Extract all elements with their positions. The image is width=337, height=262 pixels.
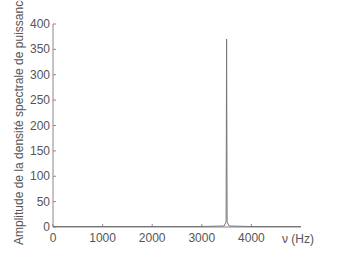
y-tick-label: 50 xyxy=(37,195,51,209)
y-axis-ticks: 050100150200250300350400 xyxy=(30,17,56,234)
x-tick-label: 0 xyxy=(50,231,57,245)
y-tick-label: 250 xyxy=(30,93,50,107)
psd-series-line xyxy=(53,39,301,226)
x-tick-label: 3000 xyxy=(188,231,215,245)
x-tick-label: 1000 xyxy=(89,231,116,245)
y-tick-label: 350 xyxy=(30,42,50,56)
y-tick-label: 150 xyxy=(30,144,50,158)
axes xyxy=(53,24,301,227)
y-axis-label: Amplitude de la densité spectrale de pui… xyxy=(12,0,26,245)
y-tick-label: 100 xyxy=(30,169,50,183)
y-tick-label: 400 xyxy=(30,17,50,31)
y-tick-label: 300 xyxy=(30,68,50,82)
x-tick-label: 4000 xyxy=(238,231,265,245)
psd-chart: 050100150200250300350400 010002000300040… xyxy=(0,0,337,262)
x-tick-label: 2000 xyxy=(139,231,166,245)
x-axis-label: ν (Hz) xyxy=(282,232,314,246)
y-tick-label: 200 xyxy=(30,119,50,133)
